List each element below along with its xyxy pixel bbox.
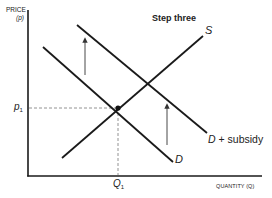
subsidy-text: + subsidy (216, 133, 264, 145)
chart-title: Step three (152, 13, 196, 23)
equilibrium-point (115, 105, 120, 110)
q1-subscript: 1 (121, 184, 124, 190)
y-axis-label-symbol: (p) (6, 14, 24, 22)
y-axis-label: PRICE (p) (6, 6, 24, 22)
demand-var: D (208, 133, 216, 145)
demand-plus-subsidy-curve (77, 25, 207, 133)
q1-tick-label: Q1 (113, 178, 124, 190)
demand-curve-d (43, 47, 173, 162)
supply-curve-s (62, 36, 203, 158)
y-axis-label-main: PRICE (6, 6, 26, 13)
demand-plus-subsidy-label: D + subsidy (208, 133, 263, 145)
demand-curve-label: D (175, 153, 183, 165)
p1-subscript: 1 (20, 107, 23, 113)
chart-canvas (0, 0, 272, 198)
p1-tick-label: p1 (14, 101, 23, 113)
q1-base: Q (113, 178, 121, 189)
supply-curve-label: S (205, 24, 212, 36)
x-axis-label: QUANTITY (Q) (216, 183, 254, 189)
